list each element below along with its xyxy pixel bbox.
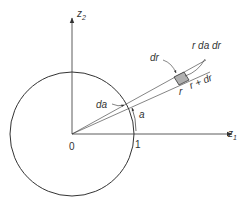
angle-increment-label: da: [96, 99, 108, 110]
dr-label: dr: [150, 52, 160, 63]
da-pointer: [112, 104, 124, 106]
angle-label: a: [139, 109, 145, 120]
area-element: [174, 72, 189, 85]
outer-radius-label: r + dr: [188, 72, 215, 91]
ray-a: [72, 60, 206, 134]
area-pointer: [185, 59, 205, 76]
origin-label: 0: [69, 141, 75, 152]
z1-label: z1: [227, 128, 237, 141]
polar-diagram: z2 z1 0 1 a da dr r da dr r r + dr: [0, 0, 248, 203]
z2-label: z2: [76, 8, 86, 21]
inner-radius-label: r: [179, 86, 183, 97]
unit-tick-label: 1: [135, 139, 141, 150]
dr-pointer: [163, 60, 176, 73]
area-element-label: r da dr: [192, 40, 222, 51]
